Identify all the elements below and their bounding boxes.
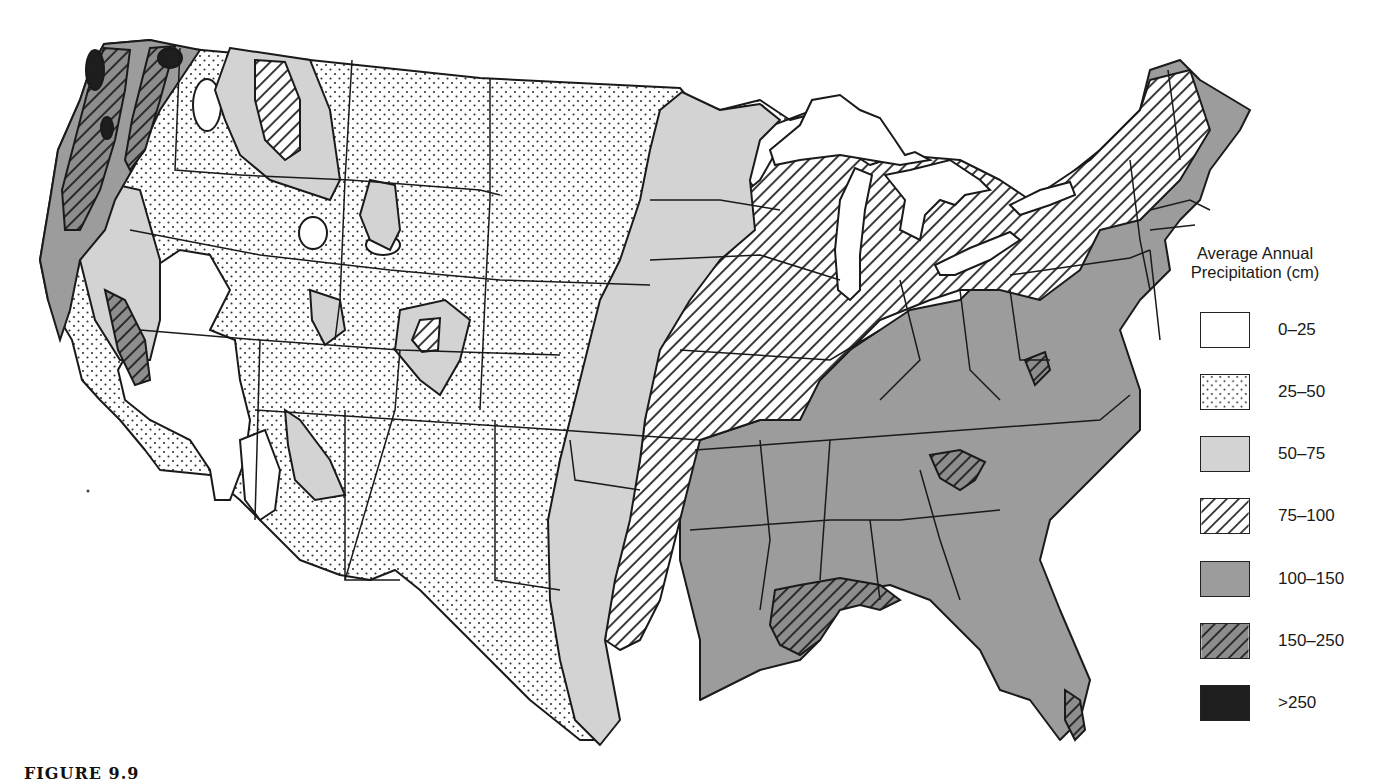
legend: Average Annual Precipitation (cm) 0–25 2… [1170,244,1370,282]
legend-item-75-100: 75–100 [1200,498,1380,538]
legend-label: 25–50 [1278,382,1325,402]
legend-label: 50–75 [1278,444,1325,464]
figure-caption: FIGURE 9.9 [24,764,139,779]
region-oregon-over-250 [101,117,113,139]
legend-label: 0–25 [1278,320,1316,340]
region-utah-dry [299,217,327,249]
swatch-dots [1200,374,1250,410]
legend-label: >250 [1278,693,1316,713]
legend-title-line1: Average Annual [1170,244,1340,263]
legend-item-100-150: 100–150 [1200,561,1380,601]
legend-item-25-50: 25–50 [1200,374,1380,414]
lake-superior [770,95,930,165]
swatch-gray-hatch [1200,623,1250,659]
swatch-black [1200,685,1250,721]
precipitation-map [0,0,1392,779]
swatch-blank [1200,312,1250,348]
stray-mark [87,490,90,493]
legend-item-50-75: 50–75 [1200,436,1380,476]
legend-label: 75–100 [1278,506,1335,526]
legend-title: Average Annual Precipitation (cm) [1170,244,1340,282]
swatch-medium-gray [1200,561,1250,597]
swatch-hatch [1200,498,1250,534]
swatch-light-gray [1200,436,1250,472]
legend-item-over-250: >250 [1200,685,1380,725]
legend-item-150-250: 150–250 [1200,623,1380,663]
legend-item-0-25: 0–25 [1200,312,1380,352]
legend-title-line2: Precipitation (cm) [1170,263,1340,282]
legend-label: 100–150 [1278,569,1344,589]
region-olympic-over-250 [86,50,104,90]
legend-label: 150–250 [1278,631,1344,651]
region-gulf-coast-150-250 [770,578,900,655]
region-northcascades-over-250 [158,48,182,68]
